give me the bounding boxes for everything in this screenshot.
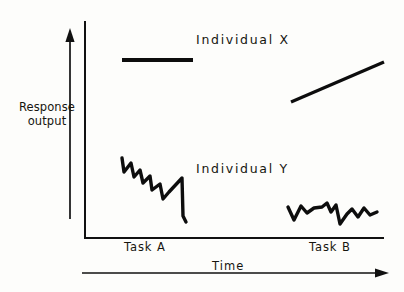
series-individual-y-task-b xyxy=(288,203,377,224)
phase-label-task-b: Task B xyxy=(309,240,351,254)
chart-figure: Responseoutput Individual X Individual Y… xyxy=(0,0,404,292)
axis-frame xyxy=(85,22,383,238)
annotation-individual-x: Individual X xyxy=(196,32,290,47)
x-axis-label: Time xyxy=(212,259,245,273)
y-axis-label-line1: Response xyxy=(19,100,75,114)
y-axis-label-line2: output xyxy=(28,114,67,128)
series-individual-y-task-a xyxy=(122,158,186,222)
annotation-individual-y: Individual Y xyxy=(196,161,289,176)
phase-label-task-a: Task A xyxy=(124,240,166,254)
series-individual-x-task-b xyxy=(291,62,384,102)
y-axis-label: Responseoutput xyxy=(14,101,80,128)
